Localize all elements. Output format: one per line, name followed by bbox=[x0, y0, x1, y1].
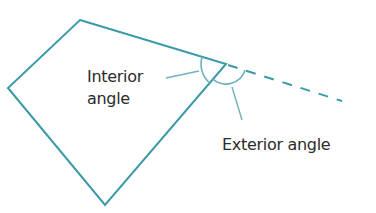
interior-leader-line bbox=[166, 71, 199, 78]
polygon-diagram bbox=[0, 0, 376, 213]
polygon-shape bbox=[8, 20, 226, 205]
interior-angle-label-line2: angle bbox=[87, 89, 130, 109]
exterior-angle-label: Exterior angle bbox=[222, 135, 330, 155]
interior-angle-label-line1: Interior bbox=[87, 67, 143, 87]
exterior-leader-line bbox=[232, 87, 242, 120]
interior-angle-arc bbox=[201, 57, 210, 83]
